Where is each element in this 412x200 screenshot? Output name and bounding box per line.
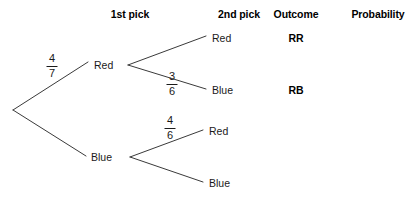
fraction-denominator: 7 — [48, 67, 56, 79]
probability-tree-diagram: 1st pick 2nd pick Outcome Probability Re… — [0, 0, 412, 200]
fraction-denominator: 6 — [166, 129, 174, 141]
column-header-outcome: Outcome — [274, 8, 319, 20]
node-1st-pick-blue: Blue — [91, 151, 112, 163]
edge-red-red — [128, 36, 206, 65]
node-2nd-pick-blue-red: Red — [209, 125, 228, 137]
column-header-2nd-pick: 2nd pick — [218, 8, 260, 20]
fraction-numerator: 3 — [168, 71, 176, 83]
tree-branch-lines — [0, 0, 412, 200]
branch-fraction-root-red: 4 7 — [47, 53, 58, 79]
fraction-numerator: 4 — [48, 53, 56, 65]
edge-root-blue — [13, 110, 86, 156]
node-2nd-pick-blue-blue: Blue — [209, 177, 230, 189]
fraction-denominator: 6 — [168, 85, 176, 97]
column-header-1st-pick: 1st pick — [111, 8, 149, 20]
edge-blue-blue — [130, 157, 203, 182]
branch-fraction-red-blue: 3 6 — [167, 71, 178, 97]
node-2nd-pick-red-red: Red — [212, 32, 231, 44]
column-header-probability: Probability — [351, 8, 404, 20]
outcome-value-rb: RB — [288, 84, 303, 96]
branch-fraction-blue-red: 4 6 — [165, 115, 176, 141]
outcome-value-rr: RR — [288, 32, 303, 44]
fraction-numerator: 4 — [166, 115, 174, 127]
node-1st-pick-red: Red — [94, 59, 113, 71]
node-2nd-pick-red-blue: Blue — [212, 84, 233, 96]
